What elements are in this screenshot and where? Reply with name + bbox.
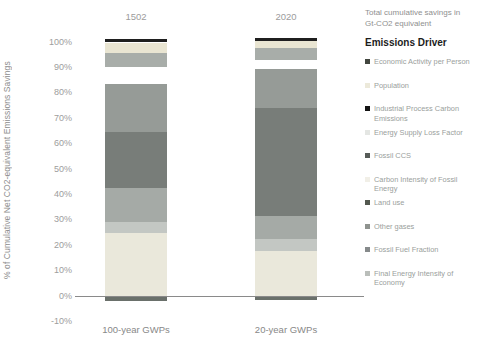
- y-tick-label: 50%: [30, 164, 72, 175]
- y-tick-label: 0%: [30, 291, 72, 302]
- bar-segment: [105, 222, 167, 233]
- legend-swatch-icon: [365, 200, 370, 205]
- legend-swatch-icon: [365, 177, 370, 182]
- bar-segment: [105, 233, 167, 296]
- legend-item-label: Industrial Process Carbon Emissions: [374, 104, 473, 128]
- legend-swatch-icon: [365, 224, 370, 229]
- bar-segment: [255, 216, 317, 239]
- legend-item-label: Fossil Fuel Fraction: [374, 245, 473, 269]
- legend-item-label: Carbon Intensity of Fossil Energy: [374, 175, 473, 199]
- legend-item: Carbon Intensity of Fossil Energy: [365, 175, 475, 199]
- legend-item-list: Economic Activity per PersonPopulationIn…: [365, 57, 475, 292]
- legend-item: Land use: [365, 198, 475, 222]
- legend-item: Energy Supply Loss Factor: [365, 128, 475, 152]
- bar-segment: [105, 84, 167, 133]
- bar-segment: [255, 60, 317, 69]
- x-axis-category-label: 100-year GWPs: [75, 324, 197, 336]
- legend-title: Emissions Driver: [365, 37, 475, 48]
- y-tick-label: 100%: [30, 37, 72, 48]
- legend-swatch-icon: [365, 106, 370, 111]
- legend-item: Fossil CCS: [365, 151, 475, 175]
- bar-segment: [105, 188, 167, 222]
- y-tick-label: 90%: [30, 62, 72, 73]
- y-tick-label: -10%: [30, 316, 72, 327]
- legend-item-label: Final Energy Intensity of Economy: [374, 269, 473, 293]
- legend-swatch-icon: [365, 247, 370, 252]
- bar-segment: [255, 48, 317, 60]
- legend-item-label: Land use: [374, 198, 473, 222]
- y-tick-label: 40%: [30, 189, 72, 200]
- legend-item-label: Energy Supply Loss Factor: [374, 128, 473, 152]
- y-tick-label: 30%: [30, 214, 72, 225]
- y-axis-title: % of Cumulative Net CO2-equivalent Emiss…: [0, 30, 14, 310]
- legend-swatch-icon: [365, 153, 370, 158]
- y-tick-label: 70%: [30, 113, 72, 124]
- bar-segment: [105, 132, 167, 188]
- legend-item-label: Population: [374, 81, 473, 105]
- emissions-savings-figure: % of Cumulative Net CO2-equivalent Emiss…: [0, 0, 477, 349]
- legend-item-label: Economic Activity per Person: [374, 57, 473, 81]
- bar-total-label: 1502: [105, 11, 167, 23]
- legend-item-label: Fossil CCS: [374, 151, 473, 175]
- legend-item: Industrial Process Carbon Emissions: [365, 104, 475, 128]
- bar-segment: [105, 67, 167, 83]
- bar-segment: [255, 239, 317, 251]
- bar-segment: [255, 108, 317, 216]
- legend-item: Final Energy Intensity of Economy: [365, 269, 475, 293]
- legend-note: Total cumulative savings in Gt-CO2 equiv…: [365, 8, 469, 29]
- legend-item: Economic Activity per Person: [365, 57, 475, 81]
- legend-item-label: Other gases: [374, 222, 473, 246]
- legend-swatch-icon: [365, 271, 370, 276]
- bar-total-label: 2020: [255, 11, 317, 23]
- bar-segment: [255, 251, 317, 296]
- legend-swatch-icon: [365, 130, 370, 135]
- bar-segment: [105, 53, 167, 67]
- legend-item: Fossil Fuel Fraction: [365, 245, 475, 269]
- y-tick-label: 60%: [30, 138, 72, 149]
- legend: Total cumulative savings in Gt-CO2 equiv…: [365, 8, 475, 292]
- zero-axis-line: [75, 296, 364, 297]
- legend-item: Population: [365, 81, 475, 105]
- legend-item: Other gases: [365, 222, 475, 246]
- bar-segment: [105, 43, 167, 54]
- legend-swatch-icon: [365, 59, 370, 64]
- legend-swatch-icon: [365, 83, 370, 88]
- y-tick-label: 10%: [30, 265, 72, 276]
- x-axis-category-label: 20-year GWPs: [225, 324, 347, 336]
- bar-segment: [255, 69, 317, 108]
- y-tick-label: 20%: [30, 240, 72, 251]
- y-tick-label: 80%: [30, 87, 72, 98]
